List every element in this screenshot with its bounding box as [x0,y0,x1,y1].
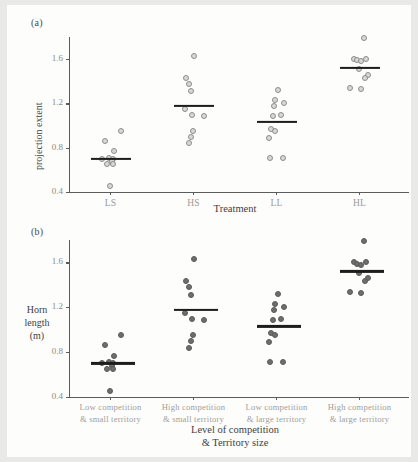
data-point [110,161,116,167]
y-tick-label: 1.6 [39,256,63,266]
data-point [280,155,286,161]
data-point [186,140,192,146]
data-point [102,138,108,144]
y-axis-line [69,37,70,192]
group-mean-line [174,105,214,107]
data-point [188,292,194,298]
panel-b: (b) Horn length (m) 0.40.81.21.6Low comp… [7,218,411,457]
x-category-label: Low competition& large territory [235,402,318,425]
data-point [201,317,207,323]
data-point [275,291,281,297]
data-point [272,332,278,338]
y-tick-mark [66,103,69,104]
x-category-label: Low competition& small territory [69,402,152,425]
data-point [118,332,124,338]
data-point [107,388,113,394]
y-tick-label: 1.6 [39,53,63,63]
data-point [188,338,194,344]
data-point [107,183,113,189]
data-point [118,128,124,134]
data-point [266,339,272,345]
data-point [281,304,287,310]
group-mean-line [340,67,380,69]
data-point [280,359,286,365]
data-point [347,85,353,91]
group-mean-line [257,121,297,123]
data-point [266,135,272,141]
data-point [358,58,364,64]
data-point [186,81,192,87]
data-point [111,148,117,154]
data-point [102,342,108,348]
data-point [362,75,368,81]
panel-a-x-axis-title: Treatment [69,203,401,214]
panel-a-y-axis-title: projection extent [33,103,44,170]
data-point [186,345,192,351]
data-point [271,103,277,109]
data-point [275,87,281,93]
panel-b-y-axis-title-line2: length [9,316,65,329]
x-axis-line [69,192,409,193]
x-category-label-line: High competition [318,402,401,414]
y-tick-label: 1.2 [39,97,63,107]
panel-a: (a) projection extent 0.40.81.21.6LSHSLL… [7,5,411,220]
y-tick-mark [66,307,69,308]
data-point [358,262,364,268]
y-tick-label: 0.8 [39,142,63,152]
group-mean-line [174,308,218,310]
data-point [358,86,364,92]
y-tick-mark [66,397,69,398]
group-mean-line [340,270,384,272]
group-mean-line [91,362,135,364]
data-point [361,35,367,41]
data-point [267,155,273,161]
panel-b-y-axis-title-line3: (m) [9,329,65,342]
data-point [201,113,207,119]
data-point [188,134,194,140]
data-point [281,100,287,106]
x-tick-mark [110,192,111,195]
panel-b-x-axis-title: Level of competition & Territory size [69,423,401,449]
panel-b-x-axis-title-line2: & Territory size [69,436,401,449]
data-point [270,113,276,119]
group-mean-line [91,158,131,160]
data-point [267,359,273,365]
x-tick-mark [193,397,194,400]
data-point [186,284,192,290]
y-tick-mark [66,192,69,193]
data-point [270,317,276,323]
panel-b-x-axis-title-line1: Level of competition [69,423,401,436]
data-point [191,53,197,59]
panel-a-label: (a) [31,17,43,28]
data-point [110,366,116,372]
y-axis-line [69,240,70,397]
panel-a-plot-area: 0.40.81.21.6LSHSLLHL [69,37,401,192]
figure-page: (a) projection extent 0.40.81.21.6LSHSLL… [0,0,418,462]
x-tick-mark [193,192,194,195]
data-point [189,316,195,322]
y-tick-label: 0.4 [39,186,63,196]
data-point [358,290,364,296]
y-tick-label: 0.8 [39,346,63,356]
x-category-label: High competition& large territory [318,402,401,425]
data-point [189,112,195,118]
y-tick-mark [66,148,69,149]
data-point [362,278,368,284]
data-point [347,289,353,295]
data-point [188,88,194,94]
data-point [182,106,188,112]
x-category-label-line: Low competition [69,402,152,414]
x-category-label-line: High competition [152,402,235,414]
panel-b-plot-area: 0.40.81.21.6Low competition& small terri… [69,240,401,397]
figure-paper: (a) projection extent 0.40.81.21.6LSHSLL… [7,5,411,457]
x-tick-mark [276,397,277,400]
panel-b-label: (b) [31,226,43,237]
data-point [278,316,284,322]
data-point [361,238,367,244]
x-tick-mark [359,192,360,195]
y-tick-label: 1.2 [39,301,63,311]
data-point [271,307,277,313]
data-point [182,310,188,316]
x-tick-mark [359,397,360,400]
data-point [191,256,197,262]
